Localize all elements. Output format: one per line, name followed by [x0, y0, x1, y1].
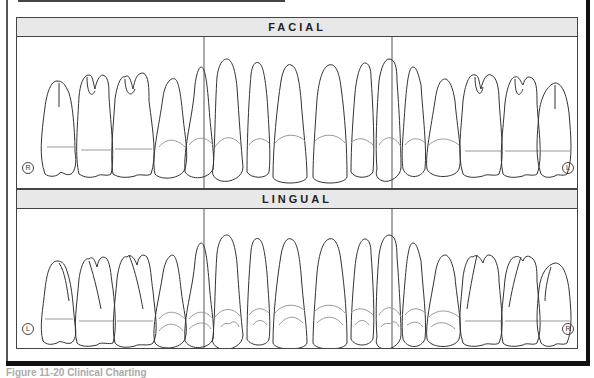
- figure-caption: Figure 11-20 Clinical Charting: [6, 367, 147, 378]
- lingual-chart: L R: [17, 209, 577, 348]
- frame-border-left: [6, 0, 8, 365]
- facial-panel: FACIAL: [16, 17, 578, 189]
- facial-right-marker: R: [22, 162, 34, 174]
- frame-border-bottom: [6, 361, 590, 366]
- lingual-panel-title: LINGUAL: [17, 190, 577, 209]
- frame-border-right: [586, 0, 590, 366]
- lingual-right-marker: R: [562, 323, 574, 335]
- facial-left-marker: L: [562, 162, 574, 174]
- tooth-molar: [41, 81, 76, 176]
- top-bar: [18, 0, 285, 2]
- facial-chart: R L: [17, 37, 577, 188]
- facial-panel-title: FACIAL: [17, 18, 577, 37]
- lingual-left-marker: L: [22, 323, 34, 335]
- lingual-panel: LINGUAL: [16, 189, 578, 349]
